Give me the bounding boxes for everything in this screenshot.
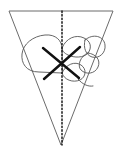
figure-container [0, 0, 122, 152]
canvas-background [0, 0, 122, 152]
line-drawing-canvas [0, 0, 122, 152]
